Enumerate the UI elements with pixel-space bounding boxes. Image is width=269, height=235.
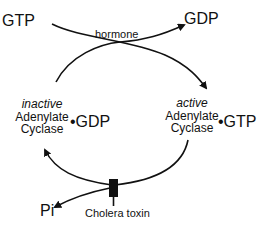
cholera-toxin-block bbox=[109, 179, 118, 197]
pi-release-arrow bbox=[55, 188, 110, 207]
hormone-label: hormone bbox=[95, 29, 138, 40]
active-qualifier: active bbox=[164, 97, 220, 109]
active-enzyme-line2: Cyclase bbox=[164, 122, 220, 134]
toxin-to-inactive-arc bbox=[45, 150, 112, 185]
active-to-toxin-arc bbox=[115, 140, 188, 185]
inactive-bound-gdp: •GDP bbox=[70, 114, 110, 130]
inactive-qualifier: inactive bbox=[14, 98, 70, 110]
gtp-label: GTP bbox=[2, 13, 35, 29]
pi-label: Pi bbox=[40, 203, 54, 219]
inactive-enzyme-line2: Cyclase bbox=[14, 123, 70, 135]
active-bound-gtp: •GTP bbox=[218, 114, 257, 130]
cholera-toxin-label: Cholera toxin bbox=[85, 208, 150, 219]
gdp-label: GDP bbox=[184, 11, 219, 27]
